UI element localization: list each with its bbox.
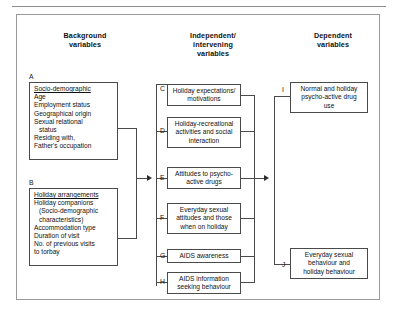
connector-c-out xyxy=(240,95,254,96)
node-j-line2: behaviour and xyxy=(291,259,367,267)
node-g-aids-awareness[interactable]: AIDS awareness xyxy=(167,249,241,263)
column-heading-independent-line3: variables xyxy=(158,49,268,58)
node-c-holiday-expectations[interactable]: Holiday expectations/ motivations xyxy=(167,84,241,106)
column-heading-dependent-line2: variables xyxy=(283,40,383,49)
node-b-item-1: (Socio-demographic xyxy=(34,207,114,215)
node-e-line2: active drugs xyxy=(168,178,240,186)
column-heading-background: Background variables xyxy=(30,31,140,49)
node-a-item-3: Sexual relational xyxy=(34,118,114,126)
node-i-line2: psycho-active drug xyxy=(291,93,367,101)
node-i-line3: use xyxy=(291,102,367,110)
node-tag-g: G xyxy=(160,252,165,260)
connector-d-out xyxy=(240,131,254,132)
top-horizontal-rule xyxy=(12,6,386,7)
column-heading-independent: Independent/ intervening variables xyxy=(158,31,268,59)
column-heading-dependent: Dependent variables xyxy=(283,31,383,49)
arrow-independent-to-dependent xyxy=(264,175,269,181)
node-b-item-4: Duration of visit xyxy=(34,232,114,240)
node-a-title: Socio-demographic xyxy=(34,85,114,93)
node-tag-b: B xyxy=(29,179,34,187)
node-b-item-6: to torbay xyxy=(34,248,114,256)
node-a-item-4: status xyxy=(34,126,114,134)
node-j-everyday-sexual-behaviour[interactable]: Everyday sexual behaviour and holiday be… xyxy=(290,248,368,279)
connector-left-bus xyxy=(136,128,137,239)
node-b-item-2: characteristics) xyxy=(34,216,114,224)
connector-a-stub xyxy=(118,128,136,129)
node-tag-f: F xyxy=(160,214,164,222)
column-heading-independent-line1: Independent/ xyxy=(158,31,268,40)
node-f-line3: when on holiday xyxy=(168,223,240,231)
node-tag-d: D xyxy=(160,127,165,135)
node-f-line2: attitudes and those xyxy=(168,214,240,222)
node-tag-h: H xyxy=(160,278,165,286)
connector-e-out xyxy=(240,178,254,179)
node-a-item-5: Residing with, xyxy=(34,134,114,142)
node-tag-c: C xyxy=(160,85,165,93)
node-c-line2: motivations xyxy=(168,95,240,103)
node-d-line1: Holiday-recreational xyxy=(168,120,240,128)
node-d-holiday-recreational[interactable]: Holiday-recreational activities and soci… xyxy=(167,117,241,148)
node-f-everyday-sexual-attitudes[interactable]: Everyday sexual attitudes and those when… xyxy=(167,203,241,234)
node-a-item-1: Employment status xyxy=(34,101,114,109)
node-h-line1: AIDS information xyxy=(168,275,240,283)
column-heading-background-line1: Background xyxy=(30,31,140,40)
connector-dependent-bus xyxy=(274,96,275,264)
node-a-item-6: Father's occupation xyxy=(34,142,114,150)
connector-middle-right-spine xyxy=(254,95,255,283)
arrow-background-to-independent xyxy=(147,175,152,181)
connector-f-out xyxy=(240,218,254,219)
node-b-item-3: Accommodation type xyxy=(34,224,114,232)
node-h-line2: seeking behaviour xyxy=(168,283,240,291)
node-a-item-0: Age xyxy=(34,93,114,101)
column-heading-dependent-line1: Dependent xyxy=(283,31,383,40)
node-c-line1: Holiday expectations/ xyxy=(168,87,240,95)
column-heading-independent-line2: intervening xyxy=(158,40,268,49)
node-j-line1: Everyday sexual xyxy=(291,251,367,259)
node-a-socio-demographic[interactable]: Socio-demographic Age Employment status … xyxy=(29,82,118,160)
node-tag-i: I xyxy=(282,86,284,94)
connector-b-stub xyxy=(118,238,136,239)
node-b-title: Holiday arrangements xyxy=(34,191,114,199)
node-e-line1: Attitudes to psycho- xyxy=(168,170,240,178)
node-j-line3: holiday behaviour xyxy=(291,268,367,276)
figure-canvas: Background variables Independent/ interv… xyxy=(0,0,398,323)
node-d-line2: activities and social xyxy=(168,128,240,136)
node-e-attitudes-psychoactive-drugs[interactable]: Attitudes to psycho- active drugs xyxy=(167,167,241,189)
node-h-aids-information-seeking[interactable]: AIDS information seeking behaviour xyxy=(167,272,241,294)
node-b-item-5: No. of previous visits xyxy=(34,240,114,248)
node-b-holiday-arrangements[interactable]: Holiday arrangements Holiday companions … xyxy=(29,188,118,266)
node-tag-j: J xyxy=(282,261,285,269)
connector-bus-to-i xyxy=(274,96,290,97)
connector-h-out xyxy=(240,282,254,283)
node-i-line1: Normal and holiday xyxy=(291,85,367,93)
node-tag-a: A xyxy=(29,73,34,81)
connector-g-out xyxy=(240,256,254,257)
node-i-normal-holiday-drug-use[interactable]: Normal and holiday psycho-active drug us… xyxy=(290,82,368,113)
node-f-line1: Everyday sexual xyxy=(168,206,240,214)
node-tag-e: E xyxy=(160,174,165,182)
node-d-line3: interaction xyxy=(168,137,240,145)
node-b-item-0: Holiday companions xyxy=(34,199,114,207)
node-a-item-2: Geographical origin xyxy=(34,110,114,118)
node-g-line1: AIDS awareness xyxy=(168,252,240,260)
column-heading-background-line2: variables xyxy=(30,40,140,49)
